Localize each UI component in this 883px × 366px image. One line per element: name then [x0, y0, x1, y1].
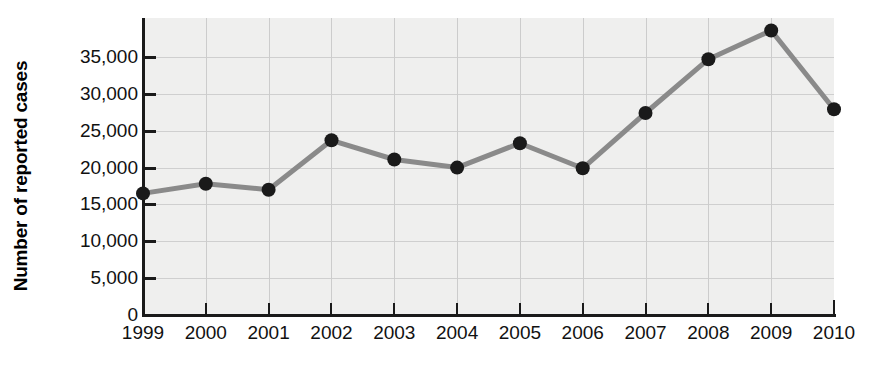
y-tick-label: 35,000: [36, 47, 138, 66]
vertical-gridline: [583, 18, 584, 315]
y-tick-mark: [143, 56, 156, 59]
y-tick-label: 15,000: [36, 194, 138, 213]
vertical-gridline: [708, 18, 709, 315]
x-tick-mark: [456, 303, 458, 316]
y-tick-label: 20,000: [36, 158, 138, 177]
y-tick-mark: [143, 240, 156, 243]
x-tick-mark: [268, 303, 270, 316]
y-tick-mark: [143, 203, 156, 206]
y-tick-label: 10,000: [36, 231, 138, 250]
x-tick-mark: [645, 303, 647, 316]
x-tick-mark: [707, 303, 709, 316]
vertical-gridline: [394, 18, 395, 315]
horizontal-gridline: [143, 168, 834, 169]
horizontal-gridline: [143, 94, 834, 95]
plot-area: [143, 18, 834, 315]
x-tick-label: 2003: [359, 322, 429, 344]
y-tick-mark: [143, 93, 156, 96]
horizontal-gridline: [143, 204, 834, 205]
vertical-gridline: [646, 18, 647, 315]
y-axis-tick-labels: 05,00010,00015,00020,00025,00030,00035,0…: [36, 0, 138, 366]
x-tick-mark: [205, 303, 207, 316]
x-tick-mark: [582, 303, 584, 316]
horizontal-gridline: [143, 131, 834, 132]
x-tick-label: 2004: [422, 322, 492, 344]
x-tick-label: 1999: [108, 322, 178, 344]
x-tick-mark: [142, 303, 144, 316]
x-tick-mark: [833, 303, 835, 316]
horizontal-gridline: [143, 278, 834, 279]
horizontal-gridline: [143, 57, 834, 58]
y-tick-mark: [143, 277, 156, 280]
x-tick-label: 2000: [171, 322, 241, 344]
x-tick-label: 2005: [485, 322, 555, 344]
vertical-gridline: [331, 18, 332, 315]
x-tick-mark: [770, 303, 772, 316]
y-tick-label: 25,000: [36, 121, 138, 140]
x-tick-mark: [330, 303, 332, 316]
x-tick-label: 2008: [673, 322, 743, 344]
y-tick-mark: [143, 130, 156, 133]
line-chart: Number of reported cases 05,00010,00015,…: [0, 0, 883, 366]
vertical-gridline: [269, 18, 270, 315]
x-tick-mark: [519, 303, 521, 316]
x-axis-line: [142, 314, 836, 317]
x-tick-label: 2010: [799, 322, 869, 344]
x-tick-mark: [393, 303, 395, 316]
y-tick-label: 30,000: [36, 84, 138, 103]
x-tick-label: 2007: [611, 322, 681, 344]
x-tick-label: 2006: [548, 322, 618, 344]
y-tick-label: 5,000: [36, 268, 138, 287]
x-tick-label: 2001: [234, 322, 304, 344]
vertical-gridline: [206, 18, 207, 315]
vertical-gridline: [457, 18, 458, 315]
vertical-gridline: [771, 18, 772, 315]
x-tick-label: 2002: [296, 322, 366, 344]
y-axis-title: Number of reported cases: [4, 16, 38, 336]
vertical-gridline: [520, 18, 521, 315]
horizontal-gridline: [143, 241, 834, 242]
y-tick-mark: [143, 167, 156, 170]
x-tick-label: 2009: [736, 322, 806, 344]
